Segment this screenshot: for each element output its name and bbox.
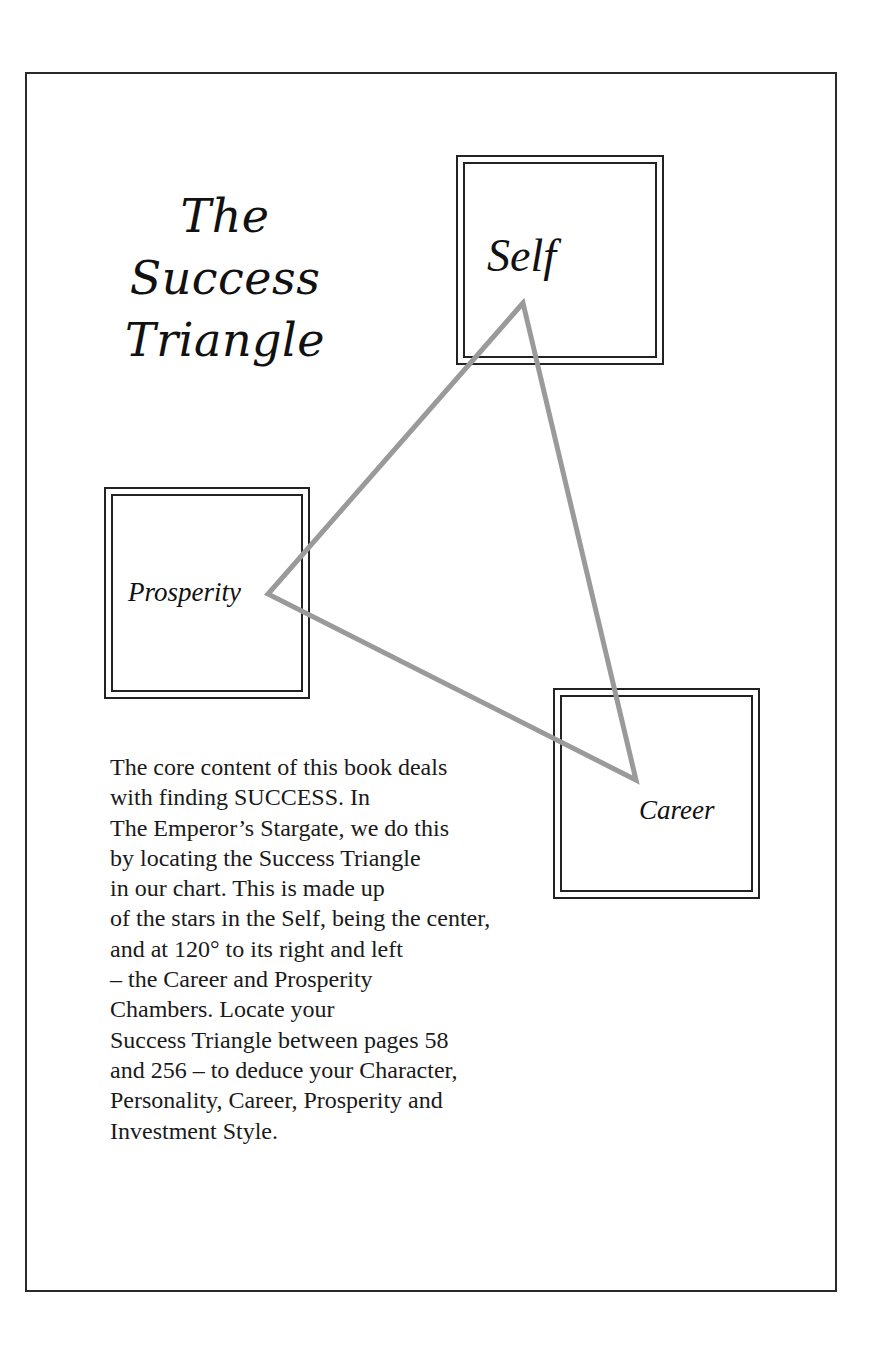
body-paragraph: The core content of this book deals with… [110, 752, 570, 1146]
career-chamber-label: Career [639, 795, 715, 826]
body-line: The Emperor’s Stargate, we do this [110, 813, 570, 843]
body-line: Success Triangle between pages 58 [110, 1025, 570, 1055]
body-line: with finding SUCCESS. In [110, 782, 570, 812]
body-line: The core content of this book deals [110, 752, 570, 782]
self-chamber-box: Self [456, 155, 664, 365]
body-line: Personality, Career, Prosperity and [110, 1085, 570, 1115]
body-line: Investment Style. [110, 1116, 570, 1146]
body-line: and at 120° to its right and left [110, 934, 570, 964]
self-chamber-label: Self [487, 229, 556, 282]
title-line: Triangle [110, 309, 340, 371]
body-line: and 256 – to deduce your Character, [110, 1055, 570, 1085]
body-line: of the stars in the Self, being the cent… [110, 903, 570, 933]
body-line: in our chart. This is made up [110, 873, 570, 903]
body-line: Chambers. Locate your [110, 994, 570, 1024]
prosperity-chamber-label: Prosperity [128, 577, 241, 608]
page-title: The Success Triangle [110, 185, 340, 371]
career-chamber-box: Career [553, 688, 760, 899]
body-line: – the Career and Prosperity [110, 964, 570, 994]
title-line: Success [110, 247, 340, 309]
title-line: The [110, 185, 340, 247]
double-border-inner [560, 695, 753, 892]
body-line: by locating the Success Triangle [110, 843, 570, 873]
prosperity-chamber-box: Prosperity [104, 487, 310, 699]
